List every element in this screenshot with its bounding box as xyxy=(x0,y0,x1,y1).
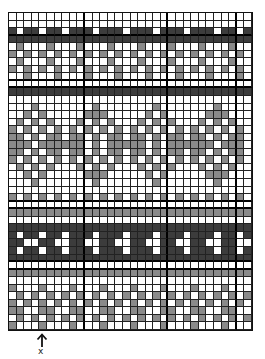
chart-cell xyxy=(55,13,63,21)
chart-cell xyxy=(168,171,176,179)
chart-cell xyxy=(244,96,252,104)
chart-cell xyxy=(161,209,169,217)
chart-cell xyxy=(100,262,108,270)
chart-cell xyxy=(55,209,63,217)
chart-cell xyxy=(199,149,207,157)
chart-cell xyxy=(176,104,184,112)
chart-cell xyxy=(146,126,154,134)
chart-cell xyxy=(214,126,222,134)
chart-cell xyxy=(55,111,63,119)
chart-cell xyxy=(244,202,252,210)
chart-cell xyxy=(138,134,146,142)
chart-cell xyxy=(93,322,101,330)
chart-cell xyxy=(39,58,47,66)
chart-cell xyxy=(176,179,184,187)
chart-cell xyxy=(206,315,214,323)
chart-cell xyxy=(77,307,85,315)
chart-cell xyxy=(184,81,192,89)
chart-cell xyxy=(115,81,123,89)
chart-cell xyxy=(47,179,55,187)
chart-cell xyxy=(168,202,176,210)
chart-cell xyxy=(161,224,169,232)
chart-cell xyxy=(62,239,70,247)
chart-cell xyxy=(146,322,154,330)
chart-cell xyxy=(229,21,237,29)
chart-cell xyxy=(47,232,55,240)
chart-cell xyxy=(24,262,32,270)
chart-cell xyxy=(214,81,222,89)
chart-cell xyxy=(184,224,192,232)
chart-cell xyxy=(199,51,207,59)
chart-cell xyxy=(77,217,85,225)
chart-cell xyxy=(206,51,214,59)
chart-cell xyxy=(100,194,108,202)
chart-cell xyxy=(184,13,192,21)
chart-cell xyxy=(176,285,184,293)
chart-cell xyxy=(17,262,25,270)
chart-cell xyxy=(244,156,252,164)
chart-cell xyxy=(161,202,169,210)
chart-cell xyxy=(115,292,123,300)
chart-cell xyxy=(199,262,207,270)
chart-cell xyxy=(153,262,161,270)
chart-cell xyxy=(85,307,93,315)
chart-cell xyxy=(17,21,25,29)
chart-cell xyxy=(24,217,32,225)
chart-cell xyxy=(206,270,214,278)
chart-cell xyxy=(214,255,222,263)
chart-cell xyxy=(47,300,55,308)
chart-cell xyxy=(93,73,101,81)
chart-cell xyxy=(199,322,207,330)
chart-cell xyxy=(237,88,245,96)
chart-cell xyxy=(93,285,101,293)
chart-cell xyxy=(77,126,85,134)
chart-cell xyxy=(85,51,93,59)
chart-cell xyxy=(93,247,101,255)
chart-cell xyxy=(32,119,40,127)
chart-cell xyxy=(161,171,169,179)
chart-cell xyxy=(85,239,93,247)
chart-cell xyxy=(55,224,63,232)
chart-cell xyxy=(100,179,108,187)
chart-cell xyxy=(237,149,245,157)
chart-cell xyxy=(123,217,131,225)
chart-cell xyxy=(206,322,214,330)
chart-cell xyxy=(62,307,70,315)
chart-cell xyxy=(161,255,169,263)
chart-cell xyxy=(9,96,17,104)
chart-cell xyxy=(138,292,146,300)
chart-cell xyxy=(199,292,207,300)
chart-cell xyxy=(161,88,169,96)
chart-cell xyxy=(115,217,123,225)
chart-cell xyxy=(100,164,108,172)
chart-cell xyxy=(70,156,78,164)
chart-cell xyxy=(85,66,93,74)
chart-cell xyxy=(168,36,176,44)
chart-cell xyxy=(131,315,139,323)
chart-cell xyxy=(62,21,70,29)
chart-cell xyxy=(39,277,47,285)
chart-cell xyxy=(85,28,93,36)
chart-cell xyxy=(24,187,32,195)
chart-cell xyxy=(115,134,123,142)
chart-cell xyxy=(115,28,123,36)
chart-cell xyxy=(199,217,207,225)
chart-cell xyxy=(77,156,85,164)
chart-cell xyxy=(62,247,70,255)
chart-cell xyxy=(9,307,17,315)
chart-cell xyxy=(77,277,85,285)
chart-cell xyxy=(138,21,146,29)
chart-cell xyxy=(100,307,108,315)
chart-cell xyxy=(85,119,93,127)
chart-cell xyxy=(108,36,116,44)
chart-cell xyxy=(191,270,199,278)
chart-cell xyxy=(146,21,154,29)
chart-cell xyxy=(199,81,207,89)
chart-cell xyxy=(214,58,222,66)
chart-cell xyxy=(85,88,93,96)
chart-cell xyxy=(222,119,230,127)
chart-cell xyxy=(17,285,25,293)
chart-cell xyxy=(229,58,237,66)
chart-cell xyxy=(138,51,146,59)
chart-cell xyxy=(206,111,214,119)
